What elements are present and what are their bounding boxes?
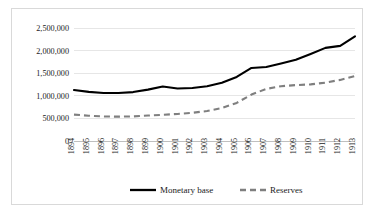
- x-tick-label: 1908: [274, 138, 283, 154]
- x-tick-label: 1911: [318, 138, 327, 154]
- x-tick-label: 1898: [126, 138, 135, 154]
- x-tick-label: 1901: [171, 138, 180, 154]
- x-tick-label: 1913: [348, 138, 357, 154]
- line-chart: 0500,0001,000,0001,500,0002,000,0002,500…: [12, 9, 362, 204]
- x-tick-label: 1903: [200, 138, 209, 154]
- x-tick-label: 1910: [304, 138, 313, 154]
- y-tick-label: 2,500,000: [36, 24, 69, 33]
- data-series: [74, 36, 355, 116]
- x-tick-label: 1900: [156, 138, 165, 154]
- x-tick-label: 1907: [259, 138, 268, 154]
- chart-container: 0500,0001,000,0001,500,0002,000,0002,500…: [11, 8, 363, 205]
- y-axis-tick-labels: 0500,0001,000,0001,500,0002,000,0002,500…: [36, 24, 69, 146]
- x-axis-tick-labels: 1894189518961897189818991900190119021903…: [67, 138, 357, 154]
- legend-label-reserves: Reserves: [270, 185, 303, 195]
- x-tick-label: 1909: [289, 138, 298, 154]
- legend-label-monetary-base: Monetary base: [160, 185, 213, 195]
- x-tick-label: 1894: [67, 138, 76, 154]
- x-tick-label: 1895: [82, 138, 91, 154]
- y-tick-label: 2,000,000: [36, 47, 69, 56]
- x-tick-label: 1897: [111, 138, 120, 154]
- y-tick-label: 500,000: [42, 114, 69, 123]
- y-tick-label: 1,500,000: [36, 69, 69, 78]
- x-tick-label: 1904: [215, 138, 224, 154]
- x-tick-label: 1912: [333, 138, 342, 154]
- x-tick-label: 1906: [244, 138, 253, 154]
- y-tick-label: 1,000,000: [36, 92, 69, 101]
- x-tick-label: 1905: [230, 138, 239, 154]
- x-tick-label: 1902: [185, 138, 194, 154]
- chart-legend: Monetary baseReserves: [130, 185, 303, 195]
- x-tick-label: 1899: [141, 138, 150, 154]
- x-tick-label: 1896: [97, 138, 106, 154]
